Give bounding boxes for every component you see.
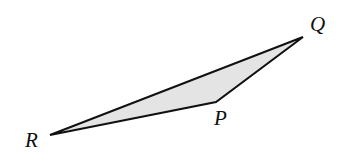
vertex-label-r: R: [24, 128, 38, 152]
triangle-pqr: [50, 37, 303, 135]
triangle-diagram: Q P R: [0, 0, 350, 154]
vertex-label-q: Q: [310, 12, 325, 36]
diagram-canvas: Q P R: [0, 0, 350, 154]
vertex-label-p: P: [213, 106, 227, 130]
